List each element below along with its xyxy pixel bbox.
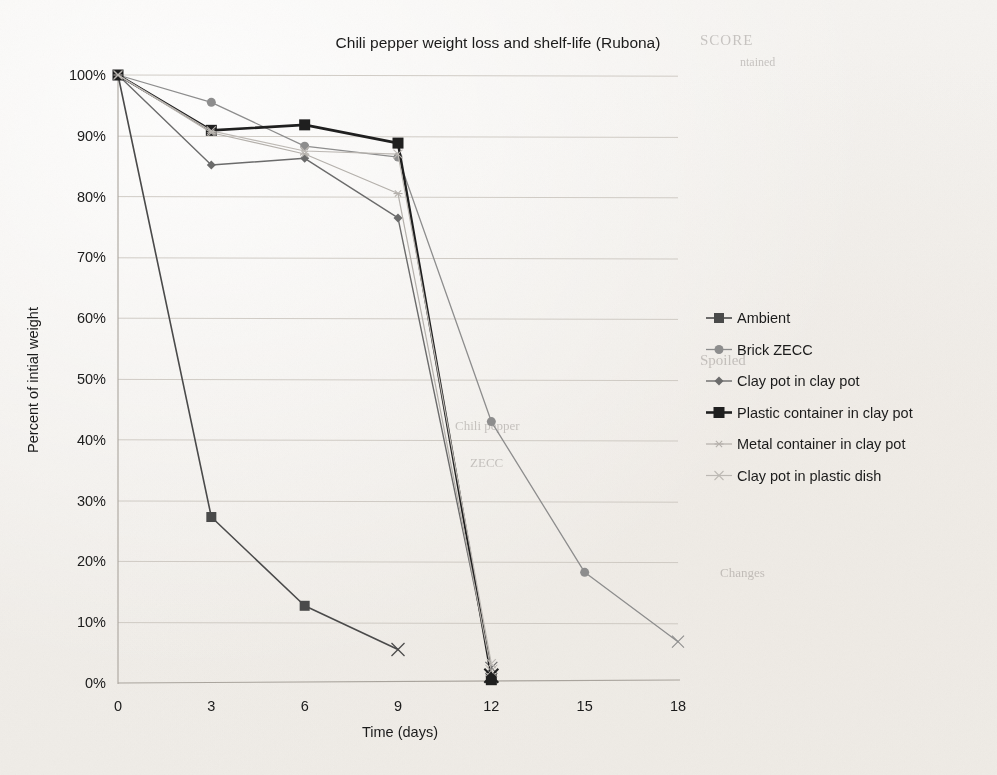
y-tick-label: 50% [77, 371, 106, 387]
legend-item-2[interactable]: Brick ZECC [706, 342, 813, 358]
legend-item-3[interactable]: Clay pot in clay pot [706, 373, 860, 389]
data-point-marker [393, 138, 404, 149]
legend-label: Clay pot in clay pot [737, 373, 860, 389]
data-point-marker [715, 377, 724, 386]
x-tick-label: 15 [577, 698, 593, 714]
x-tick-label: 0 [114, 698, 122, 714]
y-axis-ticks: 0%10%20%30%40%50%60%70%80%90%100% [69, 67, 106, 691]
legend-label: Clay pot in plastic dish [737, 468, 881, 484]
x-tick-label: 12 [483, 698, 499, 714]
legend-item-6[interactable]: Clay pot in plastic dish [706, 468, 881, 484]
x-axis-line [118, 680, 680, 683]
chart-legend: AmbientBrick ZECCClay pot in clay potPla… [706, 310, 913, 484]
data-point-marker [392, 643, 405, 656]
gridline [118, 136, 678, 137]
y-axis-label: Percent of intial weight [25, 307, 41, 453]
series-line [118, 75, 491, 664]
data-point-marker [206, 512, 216, 522]
gridline [118, 379, 678, 380]
series-1 [113, 70, 405, 656]
series-3 [114, 71, 498, 674]
y-tick-label: 40% [77, 432, 106, 448]
data-point-marker [580, 568, 589, 577]
series-line [118, 75, 491, 671]
y-tick-label: 100% [69, 67, 106, 83]
axes [118, 73, 680, 684]
data-point-marker [715, 441, 724, 447]
chart-title: Chili pepper weight loss and shelf-life … [336, 34, 661, 51]
line-chart: 0%10%20%30%40%50%60%70%80%90%100% 036912… [0, 0, 997, 775]
y-tick-label: 90% [77, 128, 106, 144]
gridline [118, 501, 678, 502]
x-tick-label: 3 [207, 698, 215, 714]
y-tick-label: 80% [77, 189, 106, 205]
legend-item-1[interactable]: Ambient [706, 310, 790, 326]
gridline [118, 561, 678, 562]
legend-label: Metal container in clay pot [737, 436, 905, 452]
y-tick-label: 60% [77, 310, 106, 326]
gridline [118, 440, 678, 441]
gridline [118, 75, 678, 76]
gridlines [118, 75, 678, 684]
x-axis-label: Time (days) [362, 724, 438, 740]
y-tick-label: 20% [77, 553, 106, 569]
legend-label: Brick ZECC [737, 342, 813, 358]
x-tick-label: 18 [670, 698, 686, 714]
data-point-marker [207, 98, 216, 107]
data-point-marker [672, 636, 684, 648]
data-point-marker [714, 313, 724, 323]
gridline [118, 258, 678, 259]
gridline [118, 623, 678, 624]
legend-label: Plastic container in clay pot [737, 405, 913, 421]
data-point-marker [300, 142, 309, 151]
series-line [118, 75, 491, 676]
y-tick-label: 0% [85, 675, 106, 691]
x-tick-label: 9 [394, 698, 402, 714]
x-axis-ticks: 0369121518 [114, 698, 686, 714]
data-point-marker [487, 417, 496, 426]
data-point-marker [714, 407, 725, 418]
data-point-marker [299, 119, 310, 130]
x-tick-label: 6 [301, 698, 309, 714]
y-tick-label: 10% [77, 614, 106, 630]
chart-container: 0%10%20%30%40%50%60%70%80%90%100% 036912… [0, 0, 997, 775]
legend-label: Ambient [737, 310, 790, 326]
data-series [113, 70, 685, 686]
data-point-marker [486, 674, 497, 685]
data-point-marker [715, 345, 724, 354]
series-line [118, 75, 491, 668]
y-tick-label: 70% [77, 249, 106, 265]
data-point-marker [300, 601, 310, 611]
gridline [118, 318, 678, 319]
y-tick-label: 30% [77, 493, 106, 509]
legend-item-4[interactable]: Plastic container in clay pot [706, 405, 913, 421]
gridline [118, 197, 678, 198]
legend-item-5[interactable]: Metal container in clay pot [706, 436, 905, 452]
data-point-marker [394, 213, 403, 222]
